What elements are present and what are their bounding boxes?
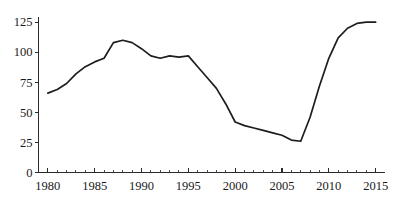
y-axis-tick-label: 50 bbox=[20, 106, 33, 120]
chart-ticks bbox=[35, 22, 376, 172]
x-axis-tick-labels: 19801985199019952000200520102015 bbox=[35, 179, 388, 193]
x-axis-tick-label: 1985 bbox=[82, 179, 107, 193]
x-axis-tick-label: 1995 bbox=[176, 179, 201, 193]
y-axis-tick-label: 125 bbox=[14, 15, 33, 29]
y-axis-tick-label: 0 bbox=[26, 166, 32, 180]
x-axis-tick-label: 2010 bbox=[316, 179, 341, 193]
y-axis-tick-label: 75 bbox=[20, 76, 33, 90]
y-axis-tick-labels: 0255075100125 bbox=[14, 15, 33, 179]
data-line-series-1 bbox=[48, 22, 376, 141]
chart-axes bbox=[39, 17, 386, 173]
x-axis-tick-label: 2015 bbox=[363, 179, 388, 193]
chart-container: 0255075100125 19801985199019952000200520… bbox=[0, 0, 399, 206]
x-axis-tick-label: 1980 bbox=[35, 179, 60, 193]
x-axis-tick-label: 2000 bbox=[223, 179, 248, 193]
chart-series bbox=[48, 22, 376, 141]
y-axis-tick-label: 25 bbox=[20, 136, 33, 150]
y-axis-tick-label: 100 bbox=[14, 45, 33, 59]
x-axis-tick-label: 2005 bbox=[269, 179, 294, 193]
line-chart: 0255075100125 19801985199019952000200520… bbox=[0, 0, 399, 206]
x-axis-tick-label: 1990 bbox=[129, 179, 154, 193]
